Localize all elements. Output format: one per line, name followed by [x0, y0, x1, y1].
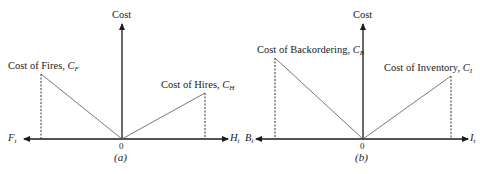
backorder-cost-label: Cost of Backordering, CB [257, 45, 364, 57]
right-axis-label-a: Ht [230, 133, 240, 145]
cost-axis-label-b: Cost [353, 10, 372, 21]
diagram-canvas [0, 0, 489, 174]
backorder-cost-line [275, 58, 363, 139]
left-axis-label-b: Bt [245, 133, 253, 145]
origin-label-a: 0 [119, 142, 124, 151]
left-axis-label-a: Ft [8, 133, 16, 145]
inventory-cost-line [363, 76, 451, 139]
hires-cost-label: Cost of Hires, CH [161, 80, 234, 92]
right-axis-label-b: It [470, 133, 475, 145]
origin-label-b: 0 [360, 142, 365, 151]
fires-cost-label: Cost of Fires, CF [8, 61, 79, 73]
caption-a: (a) [114, 152, 127, 163]
hires-cost-line [122, 93, 205, 139]
diagram-b [256, 24, 468, 139]
fires-cost-line [41, 74, 122, 139]
caption-b: (b) [355, 152, 368, 163]
cost-axis-label-a: Cost [112, 10, 131, 21]
inventory-cost-label: Cost of Inventory, CI [384, 63, 472, 75]
